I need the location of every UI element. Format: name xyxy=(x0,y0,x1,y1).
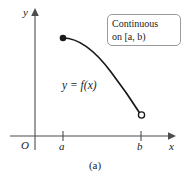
function-label: y = f(x) xyxy=(62,80,97,92)
open-endpoint-circle xyxy=(138,112,144,118)
callout-line-2: on [a, b) xyxy=(112,31,158,44)
callout-box: Continuous on [a, b) xyxy=(107,14,181,46)
tick-label-b: b xyxy=(137,141,143,152)
origin-label: O xyxy=(21,140,29,151)
x-axis-arrowhead xyxy=(168,132,176,140)
figure-caption: (a) xyxy=(0,160,190,171)
callout-text: Continuous on [a, b) xyxy=(112,18,158,43)
callout-line-1: Continuous xyxy=(112,18,158,31)
closed-endpoint-dot xyxy=(60,35,67,42)
y-axis-label: y xyxy=(23,7,28,18)
tick-label-a: a xyxy=(59,141,65,152)
x-axis-label: x xyxy=(169,141,174,152)
y-axis-arrowhead xyxy=(31,8,39,16)
function-curve xyxy=(63,38,141,115)
continuous-function-figure: y x O a b y = f(x) Continuous on [a, b) … xyxy=(0,0,190,181)
